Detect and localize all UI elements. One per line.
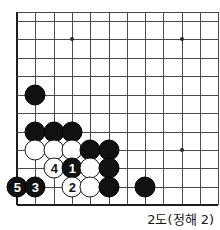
grid-line-horizontal [17,58,218,59]
stone-move-number: 3 [32,180,39,193]
star-point-icon [180,148,184,152]
grid-line-horizontal [17,113,218,114]
stone-white [25,140,46,161]
grid-line-horizontal [17,21,218,22]
stone-black-move-3: 3 [25,177,46,198]
grid-line-vertical [200,12,201,205]
grid-line-horizontal [17,12,218,13]
grid-line-horizontal [17,95,218,96]
star-point-icon [180,37,184,41]
stone-move-number: 1 [69,161,76,174]
stone-move-number: 4 [51,161,58,174]
stone-move-number: 5 [14,180,21,193]
stone-white [80,177,101,198]
go-board: 41532 [0,0,220,212]
stone-move-number: 2 [69,180,76,193]
stone-black [99,158,120,179]
stone-black [99,177,120,198]
figure-caption: 2도(정해 2) [147,209,214,228]
grid-line-vertical [218,12,219,205]
star-point-icon [70,37,74,41]
grid-line-horizontal [17,204,218,206]
go-diagram-figure: 41532 2도(정해 2) [0,0,220,230]
stone-black [25,85,46,106]
stone-white [80,158,101,179]
grid-line-vertical [163,12,164,205]
grid-line-vertical [127,12,128,205]
stone-black [135,177,156,198]
grid-line-horizontal [17,39,218,40]
grid-line-horizontal [17,76,218,77]
